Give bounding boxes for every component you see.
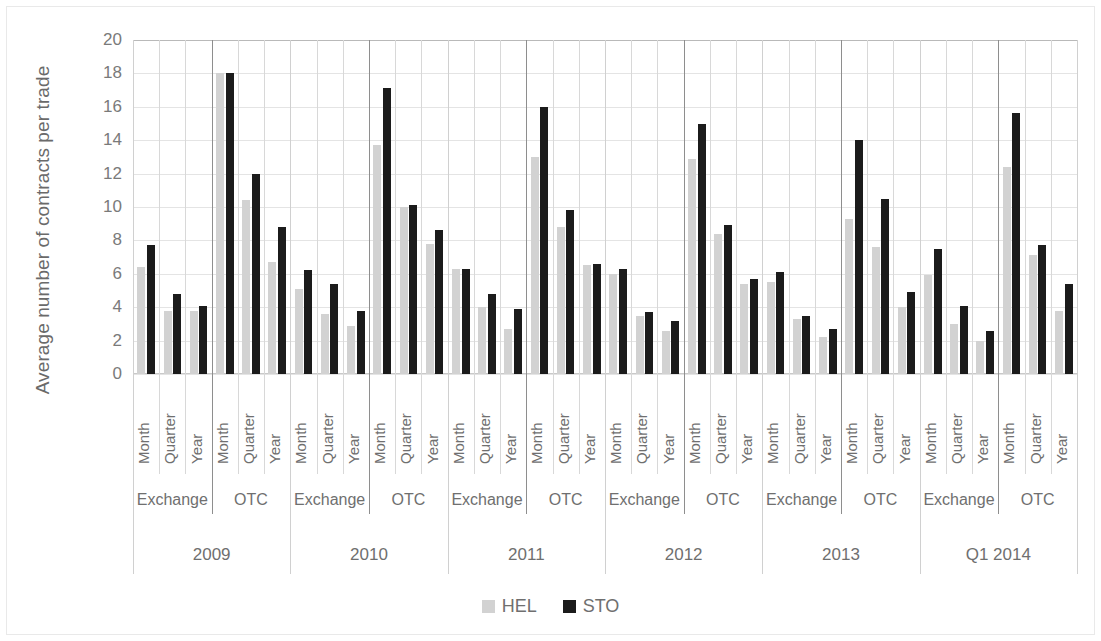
period-label: Quarter <box>791 413 808 464</box>
period-label-cell: Year <box>1051 376 1077 466</box>
bar-hel <box>531 157 539 374</box>
period-label: Month <box>607 422 624 464</box>
y-axis-tick-label: 2 <box>78 331 122 351</box>
period-label: Year <box>660 434 677 464</box>
bar-sto <box>829 329 837 374</box>
period-label-cell: Quarter <box>317 376 343 466</box>
period-label-cell: Year <box>736 376 762 466</box>
venue-label: Exchange <box>133 480 212 520</box>
period-label: Quarter <box>476 413 493 464</box>
bar-sto <box>514 309 522 374</box>
period-label-cell: Month <box>920 376 946 466</box>
legend-item[interactable]: STO <box>563 596 620 617</box>
period-label-cell: Quarter <box>631 376 657 466</box>
venue-label: OTC <box>841 480 920 520</box>
period-label-cell: Month <box>369 376 395 466</box>
period-label: Month <box>135 422 152 464</box>
y-axis-tick-label: 8 <box>78 230 122 250</box>
bar-sto <box>252 174 260 374</box>
bar-sto <box>802 316 810 374</box>
period-label-cell: Month <box>605 376 631 466</box>
period-label: Year <box>817 434 834 464</box>
bar-sto <box>776 272 784 374</box>
period-label: Month <box>292 422 309 464</box>
bar-sto <box>986 331 994 374</box>
legend-swatch-sto-icon <box>563 600 576 613</box>
period-label: Month <box>214 422 231 464</box>
venue-label-row: ExchangeOTCExchangeOTCExchangeOTCExchang… <box>133 480 1077 520</box>
period-label-cell: Month <box>133 376 159 466</box>
period-label-cell: Month <box>526 376 552 466</box>
bar-sto <box>698 124 706 375</box>
bar-hel <box>164 311 172 374</box>
period-label: Month <box>528 422 545 464</box>
bar-sto <box>724 225 732 374</box>
bar-sto <box>1012 113 1020 374</box>
period-label-cell: Year <box>421 376 447 466</box>
bar-sto <box>330 284 338 374</box>
venue-label: Exchange <box>762 480 841 520</box>
chart-root: Average number of contracts per trade 20… <box>0 0 1101 641</box>
y-axis-tick-label: 0 <box>78 364 122 384</box>
bar-hel <box>740 284 748 374</box>
bar-sto <box>645 312 653 374</box>
period-label-cell: Year <box>972 376 998 466</box>
plot-right-edge <box>1077 40 1078 574</box>
period-label: Month <box>764 422 781 464</box>
bar-hel <box>268 262 276 374</box>
bar-hel <box>662 331 670 374</box>
legend-item[interactable]: HEL <box>482 596 537 617</box>
period-label: Year <box>581 434 598 464</box>
period-label: Month <box>371 422 388 464</box>
bar-sto <box>147 245 155 374</box>
period-label-cell: Year <box>815 376 841 466</box>
venue-label: Exchange <box>290 480 369 520</box>
period-label: Year <box>502 434 519 464</box>
period-label-cell: Month <box>212 376 238 466</box>
venue-label: OTC <box>526 480 605 520</box>
bar-hel <box>636 316 644 374</box>
legend-label: STO <box>583 596 620 617</box>
period-label: Quarter <box>397 413 414 464</box>
venue-label: OTC <box>998 480 1077 520</box>
year-label: 2013 <box>762 535 919 575</box>
bar-hel <box>924 275 932 374</box>
bar-sto <box>488 294 496 374</box>
period-label: Year <box>1053 434 1070 464</box>
period-label-cell: Month <box>684 376 710 466</box>
bar-hel <box>557 227 565 374</box>
period-label: Month <box>1000 422 1017 464</box>
bar-hel <box>452 269 460 374</box>
period-label: Quarter <box>319 413 336 464</box>
bar-hel <box>137 267 145 374</box>
bar-hel <box>373 145 381 374</box>
period-label-cell: Quarter <box>159 376 185 466</box>
bar-hel <box>898 307 906 374</box>
y-axis-title: Average number of contracts per trade <box>32 66 54 395</box>
year-label-row: 20092010201120122013Q1 2014 <box>133 535 1077 575</box>
period-label: Quarter <box>869 413 886 464</box>
bar-hel <box>1003 167 1011 374</box>
bar-sto <box>1065 284 1073 374</box>
period-label: Quarter <box>712 413 729 464</box>
bar-hel <box>295 289 303 374</box>
period-label: Quarter <box>633 413 650 464</box>
bar-hel <box>714 234 722 374</box>
period-label: Year <box>424 434 441 464</box>
period-label: Quarter <box>555 413 572 464</box>
period-label-cell: Month <box>841 376 867 466</box>
period-label-cell: Month <box>290 376 316 466</box>
period-label-cell: Month <box>998 376 1024 466</box>
bar-hel <box>583 265 591 374</box>
period-label-cell: Quarter <box>867 376 893 466</box>
bar-hel <box>845 219 853 374</box>
period-label-cell: Year <box>264 376 290 466</box>
bar-sto <box>907 292 915 374</box>
bar-sto <box>750 279 758 374</box>
period-label-cell: Quarter <box>395 376 421 466</box>
y-axis-tick-label: 14 <box>78 130 122 150</box>
bar-hel <box>793 319 801 374</box>
year-label: 2010 <box>290 535 447 575</box>
bar-hel <box>819 337 827 374</box>
period-label: Quarter <box>948 413 965 464</box>
